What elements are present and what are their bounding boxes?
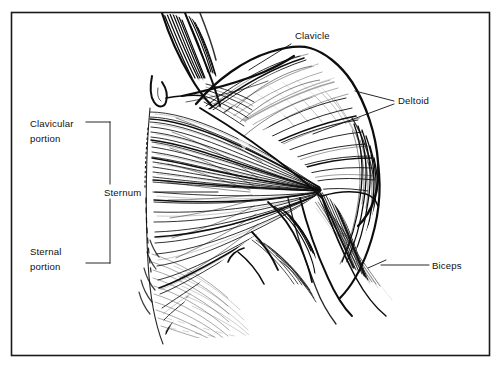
label-sternum: Sternum	[104, 187, 141, 198]
label-sternal-portion-line1: Sternal	[30, 246, 61, 257]
anatomy-figure: Clavicle Deltoid Biceps Sternum Clavicul…	[0, 0, 503, 371]
label-deltoid: Deltoid	[398, 95, 429, 106]
label-clavicular-portion-line2: portion	[30, 133, 60, 144]
label-sternal-portion-line2: portion	[30, 261, 60, 272]
label-clavicular-portion-line1: Clavicular	[30, 118, 74, 129]
label-biceps: Biceps	[432, 260, 462, 271]
illustration-canvas: Clavicle Deltoid Biceps Sternum Clavicul…	[0, 0, 503, 371]
label-clavicle: Clavicle	[295, 30, 330, 41]
